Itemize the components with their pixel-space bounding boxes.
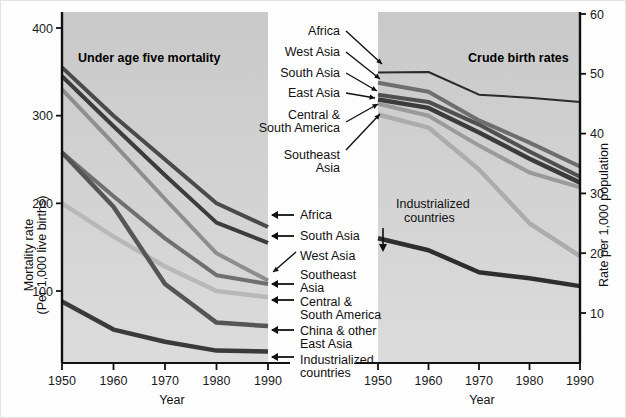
left-annotation-label-southeast-asia: Southeast (300, 268, 357, 282)
left-xtick-label-1960: 1960 (100, 374, 128, 388)
right-annotation-label-southeast-asia-2: Asia (316, 161, 340, 175)
left-x-axis-title: Year (159, 393, 184, 407)
right-ytick-label-60: 60 (590, 8, 604, 22)
left-xtick-label-1980: 1980 (203, 374, 231, 388)
right-annotation-label-central-south-america-2: South America (259, 121, 340, 135)
left-annotation-label-africa: Africa (300, 208, 332, 222)
left-annotation-label-industrialized: Industrialized (300, 353, 374, 367)
left-annotation-label-china-east-asia: China & other (300, 324, 376, 338)
right-annotation-label-industrialized: Industrialized (396, 197, 470, 211)
right-xtick-label-1960: 1960 (415, 374, 443, 388)
right-ytick-label-10: 10 (590, 307, 604, 321)
left-annotation-label-central-south-america: Central & (300, 295, 353, 309)
right-xtick-label-1990: 1990 (566, 374, 594, 388)
chart-canvas: 4003002001006050403020101950196019701980… (0, 0, 626, 418)
left-annotation-label-south-asia: South Asia (300, 229, 360, 243)
right-ytick-label-40: 40 (590, 127, 604, 141)
right-xtick-label-1980: 1980 (516, 374, 544, 388)
right-annotation-label-south-asia: South Asia (280, 66, 340, 80)
right-annotation-label-africa: Africa (308, 24, 340, 38)
left-y-axis-title-line1: Mortality rate (22, 219, 36, 291)
left-xtick-label-1990: 1990 (254, 374, 282, 388)
left-ytick-label-400: 400 (32, 22, 53, 36)
left-annotation-label2-central-south-america: South America (300, 308, 381, 322)
left-annotation-label2-industrialized: countries (300, 366, 351, 380)
right-annotation-label2-industrialized: countries (404, 211, 455, 225)
right-annotation-label-west-asia: West Asia (285, 45, 340, 59)
left-annotation-label2-southeast-asia: Asia (300, 281, 324, 295)
right-panel-title: Crude birth rates (468, 51, 569, 65)
right-ytick-label-50: 50 (590, 67, 604, 81)
left-xtick-label-1970: 1970 (151, 374, 179, 388)
left-y-axis-title-line2: (Per 1,000 live births) (35, 196, 49, 315)
left-panel-title: Under age five mortality (78, 51, 220, 65)
right-annotation-label-southeast-asia: Southeast (284, 148, 341, 162)
left-annotation-label-west-asia: West Asia (300, 249, 355, 263)
right-y-axis-title: Rate per 1,000 population (597, 143, 611, 287)
left-xtick-label-1950: 1950 (48, 374, 76, 388)
left-ytick-label-300: 300 (32, 109, 53, 123)
chart-figure: 4003002001006050403020101950196019701980… (0, 0, 626, 418)
right-annotation-label-central-south-america: Central & (288, 108, 341, 122)
left-annotation-label2-china-east-asia: East Asia (300, 337, 352, 351)
right-xtick-label-1950: 1950 (364, 374, 392, 388)
right-x-axis-title: Year (469, 393, 494, 407)
right-xtick-label-1970: 1970 (465, 374, 493, 388)
right-annotation-label-east-asia: East Asia (288, 86, 340, 100)
